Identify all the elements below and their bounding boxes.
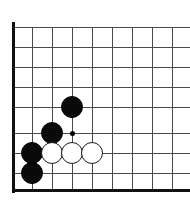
black-stone[interactable] (21, 142, 43, 164)
black-stone[interactable] (41, 122, 63, 144)
black-stone[interactable] (61, 96, 83, 118)
black-stone[interactable] (21, 162, 43, 184)
white-stone[interactable] (61, 142, 83, 164)
stone-layer (0, 0, 190, 208)
white-stone[interactable] (41, 142, 63, 164)
go-board-diagram (0, 0, 190, 208)
white-stone[interactable] (81, 142, 103, 164)
